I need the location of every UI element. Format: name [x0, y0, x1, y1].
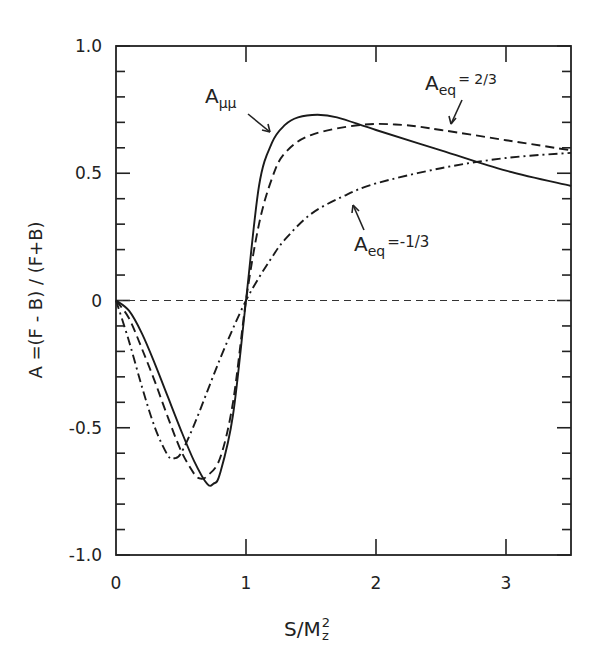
y-tick-label: 1.0 — [75, 36, 102, 56]
annotation-a-mumu: Aμμ — [205, 84, 270, 132]
annotation-aeq-two-thirds: Aeq= 2/3 — [425, 71, 497, 124]
x-tick-label: 0 — [111, 573, 122, 593]
x-axis-label: S/M2z — [284, 615, 330, 643]
svg-text:Aμμ: Aμμ — [205, 84, 237, 111]
annotation-aeq-minus-one-third: Aeq=-1/3 — [352, 205, 429, 259]
series-line-dashed — [116, 124, 571, 479]
y-axis-ticks: 1.00.50-0.5-1.0 — [69, 36, 102, 565]
y-tick-label: 0 — [91, 291, 102, 311]
series-line-dashdot — [116, 153, 571, 459]
y-tick-label: -0.5 — [69, 418, 102, 438]
y-axis-label: A =(F - B) / (F+B) — [25, 221, 46, 378]
arrow-line — [248, 114, 270, 132]
svg-text:Aeq=-1/3: Aeq=-1/3 — [354, 232, 429, 259]
x-tick-label: 3 — [501, 573, 512, 593]
arrow-line — [451, 100, 462, 124]
x-tick-label: 1 — [241, 573, 252, 593]
arrow-line — [353, 205, 364, 230]
y-tick-label: -1.0 — [69, 545, 102, 565]
svg-text:Aeq= 2/3: Aeq= 2/3 — [425, 71, 497, 98]
y-tick-label: 0.5 — [75, 163, 102, 183]
x-axis-ticks: 0123 — [111, 46, 512, 593]
x-tick-label: 2 — [371, 573, 382, 593]
chart: 0123 1.00.50-0.5-1.0 Aμμ Aeq= 2/3 Aeq=-1… — [0, 0, 596, 659]
